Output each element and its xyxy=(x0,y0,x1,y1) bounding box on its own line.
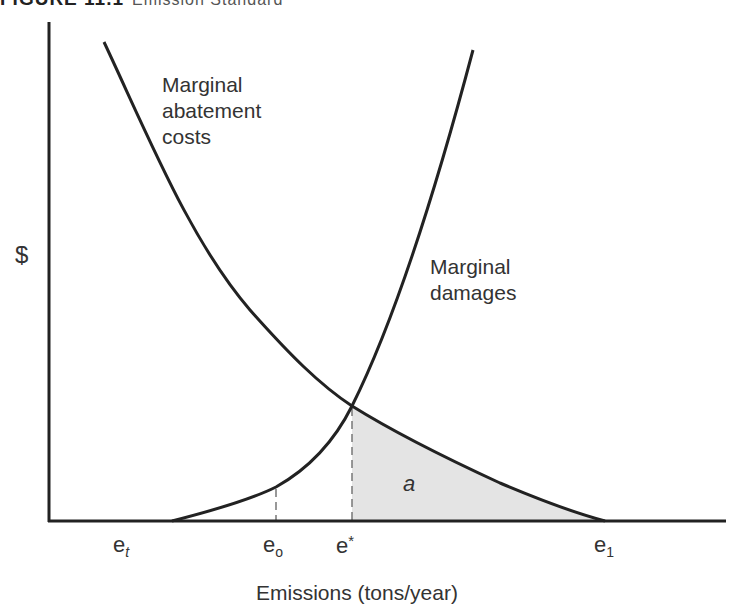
x-axis-label: Emissions (tons/year) xyxy=(256,580,458,606)
tick-e-o-sub: o xyxy=(275,544,283,560)
tick-e-1-base: e xyxy=(594,532,606,557)
chart-canvas xyxy=(0,0,733,615)
mac-label: Marginal abatement costs xyxy=(162,72,261,150)
tick-e-t-base: e xyxy=(113,532,125,557)
tick-e-star-base: e xyxy=(336,533,348,558)
md-label: Marginal damages xyxy=(430,254,516,306)
y-axis-label: $ xyxy=(15,242,28,268)
area-a-label: a xyxy=(403,471,415,497)
tick-e-t-sub: t xyxy=(125,544,129,560)
tick-e-star: e* xyxy=(336,532,354,559)
mac-label-line3: costs xyxy=(162,124,261,150)
tick-e-o: eo xyxy=(263,532,283,560)
shaded-area-a xyxy=(352,406,605,521)
md-label-line1: Marginal xyxy=(430,254,516,280)
tick-e-1-sub: 1 xyxy=(606,544,614,560)
tick-e-star-sup: * xyxy=(348,532,354,549)
tick-e-o-base: e xyxy=(263,532,275,557)
tick-e-1: e1 xyxy=(594,532,614,560)
mac-label-line1: Marginal xyxy=(162,72,261,98)
mac-label-line2: abatement xyxy=(162,98,261,124)
md-label-line2: damages xyxy=(430,280,516,306)
tick-e-t: et xyxy=(113,532,129,560)
